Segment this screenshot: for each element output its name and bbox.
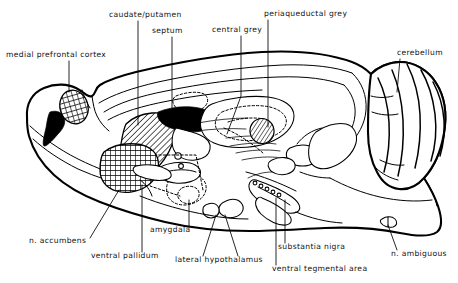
label-septum: septum — [152, 26, 183, 35]
label-ventral-tegmental-area: ventral tegmental area — [272, 264, 367, 273]
figure-canvas: medial prefrontal cortex caudate/putamen… — [0, 0, 458, 283]
brain-sagittal-diagram: medial prefrontal cortex caudate/putamen… — [0, 0, 458, 283]
label-medial-prefrontal-cortex: medial prefrontal cortex — [6, 50, 106, 59]
label-n-accumbens: n. accumbens — [29, 236, 86, 245]
fornix-circle-1 — [175, 153, 181, 159]
label-cerebellum: cerebellum — [397, 48, 443, 57]
label-amygdala: amygdala — [150, 225, 190, 234]
label-central-grey: central grey — [212, 25, 262, 34]
cerebellum-region — [368, 62, 445, 189]
label-periaqueductal-grey: periaqueductal grey — [264, 9, 347, 18]
fornix-circle-2 — [179, 164, 184, 169]
label-caudate-putamen: caudate/putamen — [109, 10, 182, 19]
label-substantia-nigra: substantia nigra — [278, 242, 345, 251]
label-ventral-pallidum: ventral pallidum — [91, 251, 159, 260]
label-n-ambiguous: n. ambiguous — [391, 249, 447, 258]
label-lateral-hypothalamus: lateral hypothalamus — [175, 255, 263, 264]
